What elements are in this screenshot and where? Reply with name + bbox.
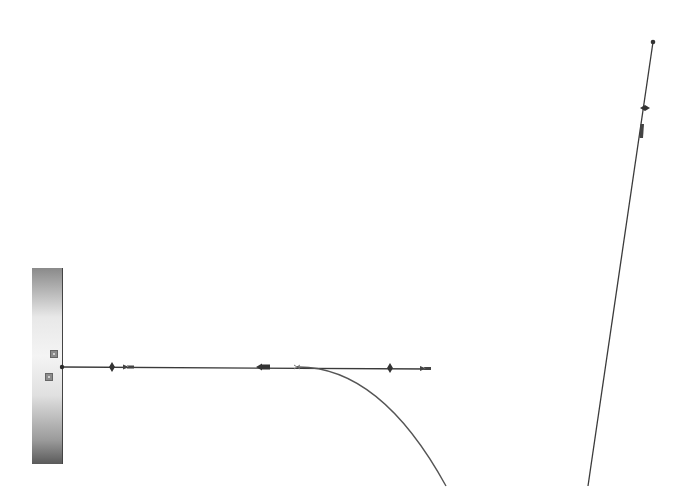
diamond-marker-icon [640,105,650,111]
arrow-left-marker-icon [256,364,270,371]
beam-axis [60,362,431,373]
inclined-end-node-icon [651,40,656,45]
diagram-canvas [0,0,673,504]
diamond-marker-icon [387,363,393,373]
diamond-marker-icon [109,362,115,372]
inclined-member [588,40,655,486]
beam-start-node-icon [60,365,64,369]
deflection-curve [297,367,446,486]
